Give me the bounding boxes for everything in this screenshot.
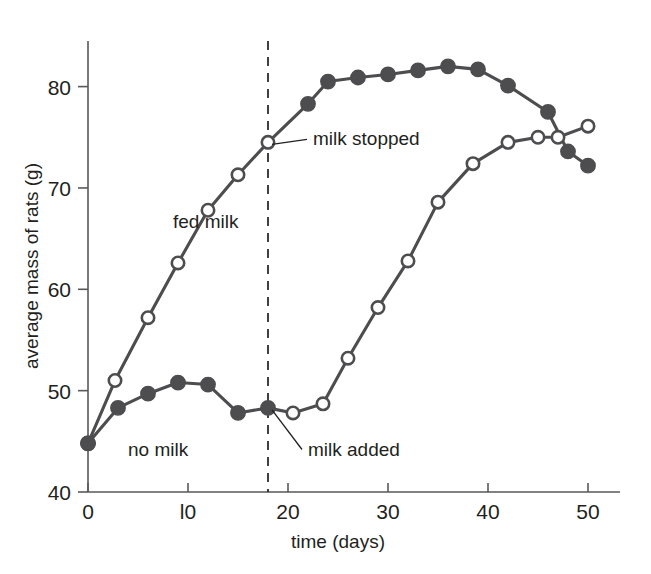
x-tick-label: 30: [376, 500, 399, 523]
data-point-fed-milk: [301, 97, 315, 111]
plot-area: 0l020304050 4050607080 milk stoppedmilk …: [21, 41, 620, 552]
data-point-fed-milk: [351, 70, 365, 84]
series-labels: fed milkno milk: [128, 211, 239, 459]
data-point-no-milk: [261, 401, 275, 415]
data-point-no-milk: [141, 386, 155, 400]
data-point-fed-milk: [441, 59, 455, 73]
data-point-fed-milk: [501, 78, 515, 92]
y-axis-title: average mass of rats (g): [21, 163, 42, 369]
data-point-fed-milk: [581, 158, 595, 172]
x-tick-label: 50: [576, 500, 599, 523]
annotation-label-milk-stopped: milk stopped: [313, 128, 420, 149]
x-axis-ticks: 0l020304050: [82, 483, 600, 523]
chart-container: 0l020304050 4050607080 milk stoppedmilk …: [0, 0, 651, 574]
annotation-leader-line: [272, 139, 307, 144]
data-point-no-milk: [582, 120, 594, 132]
data-point-no-milk: [342, 352, 354, 364]
data-point-no-milk: [171, 375, 185, 389]
data-point-no-milk: [231, 406, 245, 420]
y-tick-label: 60: [48, 278, 71, 301]
x-tick-label: 0: [82, 500, 94, 523]
data-point-no-milk: [502, 136, 514, 148]
data-point-fed-milk: [541, 105, 555, 119]
data-point-no-milk: [287, 407, 299, 419]
annotation-label-milk-added: milk added: [308, 439, 400, 460]
data-point-fed-milk: [109, 374, 121, 386]
x-tick-label: 20: [276, 500, 299, 523]
data-point-no-milk: [111, 401, 125, 415]
data-point-fed-milk: [321, 74, 335, 88]
x-tick-label: 40: [476, 500, 499, 523]
y-tick-label: 70: [48, 177, 71, 200]
data-point-fed-milk: [561, 144, 575, 158]
data-point-no-milk: [317, 398, 329, 410]
y-tick-label: 50: [48, 380, 71, 403]
series-label-no-milk: no milk: [128, 439, 189, 460]
series-markers: [81, 59, 595, 450]
y-tick-label: 80: [48, 76, 71, 99]
data-point-fed-milk: [232, 169, 244, 181]
x-tick-label: l0: [180, 500, 196, 523]
data-point-no-milk: [201, 377, 215, 391]
data-point-fed-milk: [142, 311, 154, 323]
data-point-no-milk: [552, 131, 564, 143]
series-lines: [88, 66, 588, 443]
rat-growth-line-chart: 0l020304050 4050607080 milk stoppedmilk …: [0, 0, 651, 574]
data-point-no-milk: [467, 157, 479, 169]
data-point-no-milk: [432, 196, 444, 208]
series-label-fed-milk: fed milk: [173, 211, 239, 232]
x-axis-title: time (days): [291, 531, 385, 552]
data-point-no-milk: [372, 301, 384, 313]
data-point-fed-milk: [381, 67, 395, 81]
data-point-no-milk: [402, 255, 414, 267]
data-point-fed-milk: [172, 257, 184, 269]
data-point-fed-milk: [471, 62, 485, 76]
series-line-no-milk: [88, 126, 588, 443]
data-point-no-milk: [81, 436, 95, 450]
data-point-no-milk: [532, 131, 544, 143]
data-point-fed-milk: [262, 136, 274, 148]
y-tick-label: 40: [48, 481, 71, 504]
data-point-fed-milk: [411, 63, 425, 77]
